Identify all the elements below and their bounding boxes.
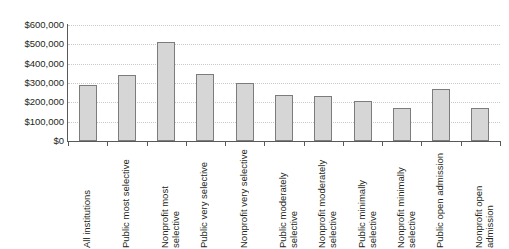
bar-chart: $600,000$500,000$400,000$300,000$200,000…	[0, 0, 509, 249]
x-axis-category-label: Public minimally selective	[357, 148, 379, 248]
x-axis-category-label: Nonprofit moderately selective	[317, 148, 339, 248]
x-axis-labels: All institutionsPublic most selectiveNon…	[68, 148, 500, 249]
y-axis-labels: $600,000$500,000$400,000$300,000$200,000…	[0, 0, 64, 249]
gridline	[68, 44, 500, 45]
x-axis-line	[67, 141, 501, 142]
x-axis-tick	[304, 141, 305, 146]
bar	[196, 74, 214, 141]
bar	[314, 96, 332, 141]
x-axis-tick	[461, 141, 462, 146]
x-axis-category-label: Nonprofit minimally selective	[396, 148, 418, 248]
x-axis-tick	[500, 141, 501, 146]
bar	[354, 101, 372, 141]
bar	[157, 42, 175, 141]
bar	[432, 89, 450, 141]
x-axis-tick	[147, 141, 148, 146]
x-axis-category-label: Public very selective	[199, 148, 221, 248]
x-axis-tick	[264, 141, 265, 146]
x-axis-category-label: Public moderately selective	[278, 148, 300, 248]
y-axis-tick-label: $400,000	[0, 59, 64, 69]
y-axis-line	[67, 24, 68, 142]
bar	[79, 85, 97, 141]
x-axis-tick	[107, 141, 108, 146]
x-axis-category-label: Public open admission	[435, 148, 457, 248]
x-axis-category-label: Public most selective	[121, 148, 143, 248]
x-axis-category-label: Nonprofit open admission	[474, 148, 496, 248]
bar	[393, 108, 411, 141]
bar	[471, 108, 489, 141]
y-axis-tick-label: $0	[0, 136, 64, 146]
bar	[118, 75, 136, 141]
y-axis-tick-label: $600,000	[0, 20, 64, 30]
x-axis-tick	[421, 141, 422, 146]
y-axis-tick-label: $500,000	[0, 39, 64, 49]
y-axis-tick-label: $200,000	[0, 97, 64, 107]
x-axis-tick	[343, 141, 344, 146]
plot-area	[68, 25, 500, 141]
x-axis-tick	[186, 141, 187, 146]
x-axis-tick	[382, 141, 383, 146]
x-axis-tick	[68, 141, 69, 146]
x-axis-category-label: Nonprofit most selective	[160, 148, 182, 248]
x-axis-tick	[225, 141, 226, 146]
y-axis-tick-label: $100,000	[0, 117, 64, 127]
gridline	[68, 64, 500, 65]
bar	[236, 83, 254, 141]
gridline	[68, 25, 500, 26]
y-axis-tick-label: $300,000	[0, 78, 64, 88]
x-axis-category-label: All institutions	[82, 148, 104, 248]
bar	[275, 95, 293, 141]
x-axis-category-label: Nonprofit very selective	[239, 148, 261, 248]
